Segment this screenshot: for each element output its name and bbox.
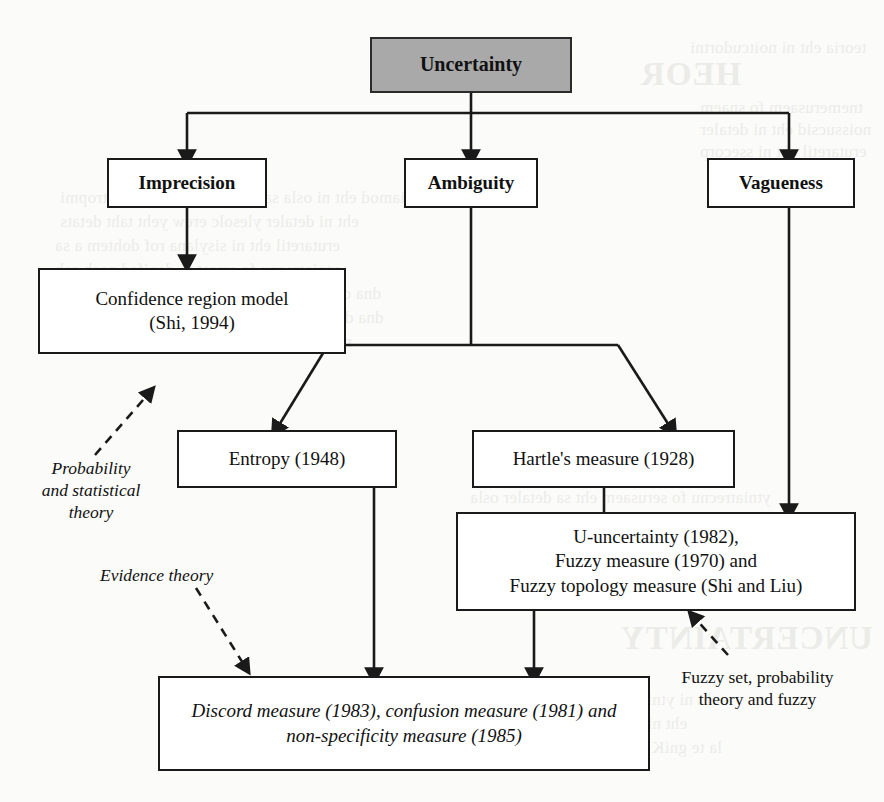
node-ambiguity-label: Ambiguity: [428, 171, 515, 195]
node-discord-line2: non-specificity measure (1985): [286, 724, 522, 748]
leader-probability-to-confidence: [95, 392, 150, 455]
uncertainty-taxonomy-diagram: teoria eht ni noitcudortni HEOR tnemerus…: [0, 0, 884, 802]
node-confidence-line1: Confidence region model: [95, 287, 288, 311]
node-u-uncertainty[interactable]: U-uncertainty (1982), Fuzzy measure (197…: [456, 512, 856, 611]
node-confidence-line2: (Shi, 1994): [149, 311, 235, 335]
node-u-uncertainty-line1: U-uncertainty (1982),: [573, 525, 739, 549]
node-hartles-label: Hartle's measure (1928): [513, 447, 695, 471]
leader-evidence-to-discord: [196, 588, 246, 668]
node-entropy-label: Entropy (1948): [229, 447, 346, 471]
node-hartles-measure[interactable]: Hartle's measure (1928): [472, 430, 735, 488]
node-u-uncertainty-line2: Fuzzy measure (1970) and: [555, 549, 757, 573]
node-u-uncertainty-line3: Fuzzy topology measure (Shi and Liu): [510, 574, 803, 598]
annotation-evidence-theory: Evidence theory: [100, 565, 260, 587]
node-vagueness-label: Vagueness: [739, 171, 823, 195]
node-uncertainty-label: Uncertainty: [420, 52, 522, 78]
node-imprecision-label: Imprecision: [139, 171, 236, 195]
node-confidence-region-model[interactable]: Confidence region model (Shi, 1994): [38, 268, 346, 354]
node-vagueness[interactable]: Vagueness: [707, 158, 855, 208]
node-entropy[interactable]: Entropy (1948): [177, 430, 397, 488]
edge-ambiguity-to-entropy: [276, 345, 328, 430]
annotation-probability-statistical-theory: Probability and statistical theory: [12, 458, 170, 524]
node-uncertainty[interactable]: Uncertainty: [370, 37, 572, 93]
node-discord-measure[interactable]: Discord measure (1983), confusion measur…: [158, 676, 650, 771]
node-ambiguity[interactable]: Ambiguity: [404, 158, 538, 208]
annotation-fuzzy-set-probability: Fuzzy set, probability theory and fuzzy: [650, 667, 865, 711]
node-imprecision[interactable]: Imprecision: [107, 158, 267, 208]
node-discord-line1: Discord measure (1983), confusion measur…: [192, 699, 617, 723]
edge-ambiguity-to-hartle: [618, 345, 672, 430]
leader-fuzzyset-to-uuncertainty: [693, 616, 728, 655]
